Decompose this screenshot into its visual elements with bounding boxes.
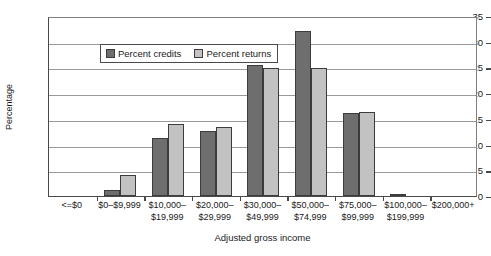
legend-item-percent-returns: Percent returns xyxy=(194,48,271,59)
y-axis-tick-mark xyxy=(486,68,491,69)
legend-item-label: Percent returns xyxy=(206,48,271,59)
legend-swatch-icon xyxy=(106,49,115,58)
y-axis-tick-mark xyxy=(486,120,491,121)
chart-legend: Percent credits Percent returns xyxy=(100,44,278,63)
bar-percent-credits xyxy=(247,65,263,196)
y-axis-tick-mark xyxy=(486,43,491,44)
x-axis-category-label: $200,000+ xyxy=(423,200,483,212)
bar-group xyxy=(287,18,335,196)
x-axis-category-labels: <=$0$0–$9,999$10,000– $19,999$20,000– $2… xyxy=(48,200,477,228)
bar-group xyxy=(335,18,383,196)
y-axis-title-text: Percentage xyxy=(4,84,14,130)
bar-group xyxy=(49,18,97,196)
y-axis-tick-mark xyxy=(486,94,491,95)
y-axis-title: Percentage xyxy=(2,17,16,197)
y-axis-tick-mark xyxy=(486,197,491,198)
plot-area: Percent credits Percent returns xyxy=(48,17,477,197)
y-axis-tick: 0 xyxy=(443,197,491,198)
bar-percent-credits xyxy=(200,131,216,196)
bar-percent-credits xyxy=(152,138,168,196)
bar-chart: Percentage 05101520253035 Percent credit… xyxy=(0,0,491,256)
bar-percent-returns xyxy=(359,112,375,196)
bar-percent-returns xyxy=(120,175,136,196)
bar-percent-credits xyxy=(390,194,406,196)
bar-percent-returns xyxy=(216,127,232,196)
legend-item-label: Percent credits xyxy=(118,48,181,59)
bar-group xyxy=(430,18,478,196)
legend-swatch-icon xyxy=(194,49,203,58)
bar-percent-returns xyxy=(168,124,184,196)
x-axis-title: Adjusted gross income xyxy=(48,232,477,243)
bar-percent-returns xyxy=(263,68,279,196)
bar-percent-returns xyxy=(311,68,327,196)
bar-percent-credits xyxy=(295,31,311,196)
y-axis-tick-mark xyxy=(486,146,491,147)
y-axis-tick-label: 5 xyxy=(478,164,483,177)
y-axis-tick-mark xyxy=(486,17,491,18)
legend-item-percent-credits: Percent credits xyxy=(106,48,181,59)
bar-group xyxy=(383,18,431,196)
y-axis-tick-mark xyxy=(486,171,491,172)
bar-percent-credits xyxy=(104,190,120,196)
bar-percent-credits xyxy=(343,113,359,196)
